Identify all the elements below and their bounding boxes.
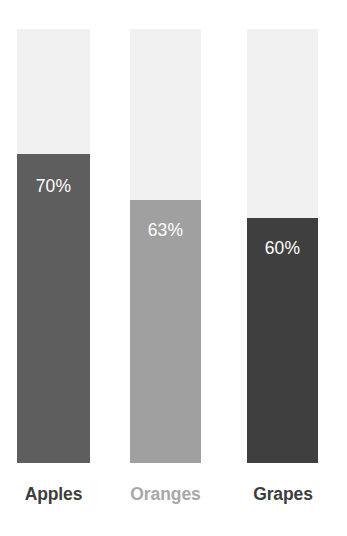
chart-page: { "chart_data": { "type": "bar", "title"… <box>0 0 347 536</box>
bar-fill-apples: 70% <box>17 154 90 463</box>
bar-label-apples: Apples <box>10 486 97 504</box>
bar-chart: 70% Apples 63% Oranges 60% Grapes <box>0 0 347 536</box>
bar-value-oranges: 63% <box>130 222 201 240</box>
bar-fill-grapes: 60% <box>247 218 318 463</box>
bar-group-oranges[interactable]: 63% <box>130 29 201 463</box>
bar-label-grapes: Grapes <box>239 486 327 504</box>
bar-fill-oranges: 63% <box>130 200 201 463</box>
bar-label-oranges: Oranges <box>112 486 219 504</box>
bar-group-apples[interactable]: 70% <box>17 29 90 463</box>
bar-value-apples: 70% <box>17 178 90 196</box>
bar-group-grapes[interactable]: 60% <box>247 29 318 463</box>
bar-value-grapes: 60% <box>247 240 318 258</box>
